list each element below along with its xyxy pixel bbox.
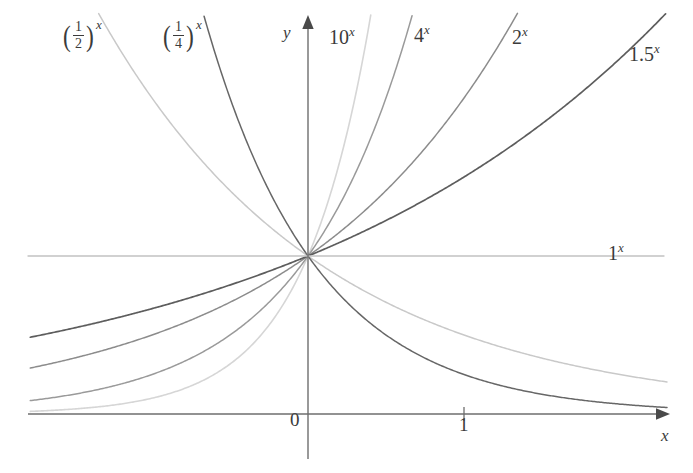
- fraction: 14: [172, 20, 185, 52]
- fraction-numerator: 1: [173, 20, 184, 34]
- x-axis-arrowhead: [656, 408, 670, 419]
- exponent: x: [96, 18, 102, 31]
- fraction: 12: [72, 20, 85, 52]
- x-axis-label: x: [661, 427, 669, 444]
- exponent: x: [522, 25, 528, 39]
- curve-label-2-x: 2x: [512, 27, 528, 47]
- plot-canvas: [0, 0, 693, 473]
- curve-1-5-x: [30, 14, 665, 337]
- fraction-expression: (12)x: [62, 20, 102, 52]
- curve-label-1-5-x: 1.5x: [629, 44, 660, 64]
- origin-tick-label: 0: [290, 410, 300, 429]
- mantissa: 10: [329, 26, 349, 48]
- right-paren: ): [186, 24, 194, 47]
- mantissa: 1: [608, 242, 618, 264]
- fraction-denominator: 4: [173, 37, 184, 51]
- exponent: x: [349, 25, 355, 39]
- fraction-numerator: 1: [73, 20, 84, 34]
- curve-1-2-x: [99, 14, 667, 382]
- curve-label-1-x: 1x: [608, 243, 624, 263]
- x-tick-label-1: 1: [459, 415, 469, 434]
- fraction-denominator: 2: [73, 37, 84, 51]
- curve-1-4-x: [204, 16, 667, 407]
- curve-label-1-2-x: (12)x: [62, 20, 102, 52]
- curves-group: [28, 13, 667, 411]
- mantissa: 4: [414, 24, 424, 46]
- y-axis-arrowhead: [302, 15, 313, 29]
- exponential-functions-figure: y x 0 1 (12)x(14)x10x4x2x1.5x1x: [0, 0, 693, 473]
- curve-label-4-x: 4x: [414, 25, 430, 45]
- axes-group: [28, 15, 670, 459]
- exponent: x: [196, 18, 202, 31]
- mantissa: 1.5: [629, 43, 654, 65]
- curve-label-1-4-x: (14)x: [162, 20, 202, 52]
- fraction-expression: (14)x: [162, 20, 202, 52]
- curve-label-10-x: 10x: [329, 27, 355, 47]
- exponent: x: [424, 23, 430, 37]
- right-paren: ): [86, 24, 94, 47]
- curve-10-x: [30, 15, 370, 411]
- left-paren: (: [63, 24, 71, 47]
- mantissa: 2: [512, 26, 522, 48]
- left-paren: (: [163, 24, 171, 47]
- exponent: x: [654, 42, 660, 56]
- y-axis-label: y: [283, 24, 291, 41]
- exponent: x: [618, 241, 624, 255]
- curve-2-x: [30, 13, 517, 368]
